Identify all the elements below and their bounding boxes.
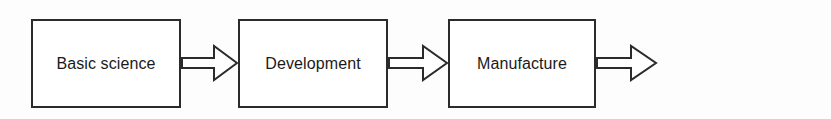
process-stage-development[interactable]: Development <box>238 19 388 108</box>
stage-label: Basic science <box>56 56 155 72</box>
stage-label: Manufacture <box>477 56 567 72</box>
stage-label: Development <box>265 56 360 72</box>
flow-arrow-development-to-manufacture <box>388 44 448 82</box>
process-flow-diagram: Basic science Development Manufacture <box>0 0 831 119</box>
flow-arrow-manufacture-to-marketing <box>596 44 657 82</box>
process-stage-manufacture[interactable]: Manufacture <box>448 19 596 108</box>
process-stage-basic-science[interactable]: Basic science <box>31 19 181 108</box>
flow-arrow-basic-science-to-development <box>181 44 238 82</box>
